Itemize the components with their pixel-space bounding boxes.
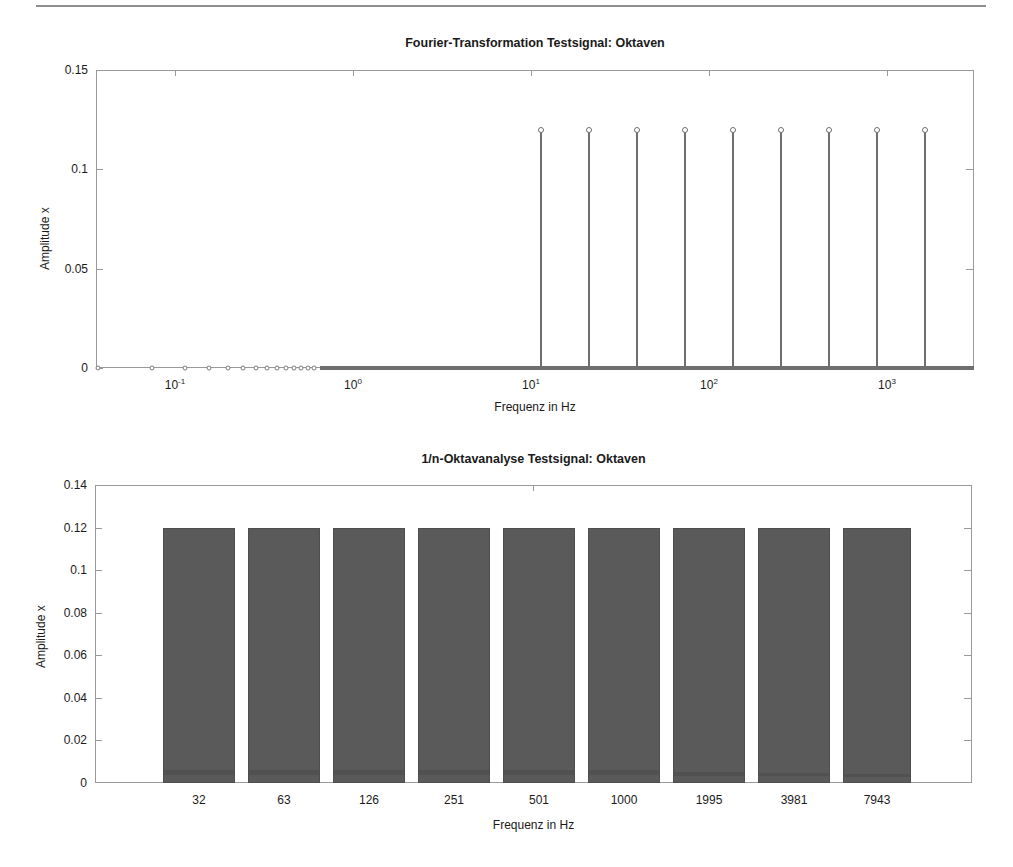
x-tick-mark-top (709, 70, 710, 76)
y-tick-mark (95, 613, 102, 614)
stem-line (828, 130, 830, 368)
x-tick-exponent: 1 (535, 377, 539, 386)
zero-marker (265, 366, 270, 371)
x-tick-mark-top (887, 70, 888, 76)
y-tick-label: 0.08 (38, 606, 87, 620)
y-tick-mark (95, 570, 102, 571)
y-tick-mark (96, 169, 103, 170)
x-tick-mantissa: 10 (344, 378, 357, 392)
bar (248, 528, 320, 783)
x-tick-label: 1995 (696, 793, 723, 807)
x-tick-label: 126 (359, 793, 379, 807)
stem-marker (730, 127, 736, 133)
bar (588, 528, 660, 783)
y-tick-mark-right (964, 740, 971, 741)
y-tick-mark (95, 698, 102, 699)
zero-marker (292, 366, 297, 371)
bar (333, 528, 405, 783)
stem-line (636, 130, 638, 368)
zero-marker (306, 366, 311, 371)
y-tick-mark-right (966, 269, 973, 270)
bar (503, 528, 575, 783)
x-tick-mantissa: 10 (700, 378, 713, 392)
y-tick-label: 0.04 (38, 691, 87, 705)
x-tick-label: 1000 (611, 793, 638, 807)
x-tick-label: 32 (192, 793, 205, 807)
y-tick-label: 0.1 (38, 563, 87, 577)
zero-marker (299, 366, 304, 371)
y-tick-mark (96, 269, 103, 270)
y-tick-label: 0.12 (38, 521, 87, 535)
bar (758, 528, 830, 783)
y-tick-mark (95, 528, 102, 529)
x-tick-mark-top (533, 485, 534, 491)
x-tick-exponent: 0 (357, 377, 361, 386)
stem-line (684, 130, 686, 368)
zero-marker (241, 366, 246, 371)
y-axis-label-fourier: Amplitude x (38, 207, 52, 270)
bar-foot (504, 770, 574, 775)
x-axis-label-octave: Frequenz in Hz (95, 818, 972, 832)
stem-marker (778, 127, 784, 133)
x-tick-mark-top (353, 70, 354, 76)
x-tick-label: 7943 (864, 793, 891, 807)
y-tick-label: 0.02 (38, 733, 87, 747)
stem-marker (634, 127, 640, 133)
figure-page: Fourier-Transformation Testsignal: Oktav… (0, 0, 1013, 867)
y-tick-mark-right (964, 613, 971, 614)
x-tick-exponent: 3 (891, 377, 895, 386)
x-tick-label: 102 (700, 377, 718, 392)
bar (418, 528, 490, 783)
x-tick-label: 3981 (781, 793, 808, 807)
x-tick-label: 100 (344, 377, 362, 392)
stem-line (540, 130, 542, 368)
bar (673, 528, 745, 783)
bar-foot (249, 770, 319, 775)
zero-marker (183, 366, 188, 371)
stem-marker (922, 127, 928, 133)
bar (843, 528, 911, 783)
stem-line (876, 130, 878, 368)
stem-marker (826, 127, 832, 133)
x-tick-label: 501 (529, 793, 549, 807)
stem-line (924, 130, 926, 368)
y-tick-label: 0 (46, 361, 88, 375)
bar-foot (759, 773, 829, 776)
x-tick-label: 10-1 (165, 377, 185, 392)
y-tick-mark-right (964, 570, 971, 571)
chart-title-fourier: Fourier-Transformation Testsignal: Oktav… (96, 36, 974, 50)
y-tick-mark-right (964, 698, 971, 699)
y-tick-mark-right (964, 528, 971, 529)
x-tick-mark-top (175, 70, 176, 76)
chart-fourier-transform: Fourier-Transformation Testsignal: Oktav… (0, 0, 1013, 430)
x-tick-exponent: -1 (178, 377, 185, 386)
x-tick-mantissa: 10 (878, 378, 891, 392)
x-axis-label-fourier: Frequenz in Hz (96, 400, 974, 414)
zero-marker (254, 366, 259, 371)
stem-marker (682, 127, 688, 133)
x-tick-mantissa: 10 (522, 378, 535, 392)
bar-foot (419, 770, 489, 775)
stem-marker (586, 127, 592, 133)
bar-foot (844, 774, 910, 777)
zero-marker (226, 366, 231, 371)
zero-marker (96, 366, 101, 371)
x-tick-exponent: 2 (713, 377, 717, 386)
y-tick-mark (95, 740, 102, 741)
stem-marker (874, 127, 880, 133)
bar-foot (674, 772, 744, 776)
stem-marker (538, 127, 544, 133)
x-tick-label: 101 (522, 377, 540, 392)
y-tick-label: 0.06 (38, 648, 87, 662)
y-tick-label: 0 (38, 776, 87, 790)
stem-line (732, 130, 734, 368)
zero-marker (150, 366, 155, 371)
y-tick-mark (95, 655, 102, 656)
y-tick-label: 0.05 (46, 262, 88, 276)
plot-area-fourier (96, 70, 974, 368)
y-tick-mark-right (964, 655, 971, 656)
y-tick-mark-right (966, 169, 973, 170)
stem-line (780, 130, 782, 368)
bar (163, 528, 235, 783)
zero-marker (284, 366, 289, 371)
